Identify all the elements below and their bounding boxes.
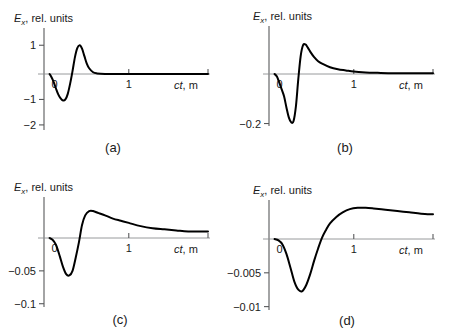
x-tick-label-c-1: 1 (126, 242, 132, 254)
panel-label-d: (d) (339, 313, 355, 328)
y-tick-label-a-0: 1 (30, 39, 36, 51)
y-tick-label-b-0: −0.2 (239, 118, 261, 130)
panel-label-b: (b) (337, 140, 353, 155)
y-axis-label-a: Ex, rel. units (14, 12, 74, 27)
y-tick-label-a-1: −1 (23, 93, 36, 105)
x-axis-label-c: ct, m (174, 243, 198, 255)
plot-svg-d: −0.005−0.0101ct, mEx, rel. units(d) (227, 167, 453, 334)
x-tick-label-a-1: 1 (126, 78, 132, 90)
plot-panel-a: 1−1−201ct, mEx, rel. units(a) (0, 0, 226, 167)
y-tick-label-d-0: −0.005 (227, 267, 261, 279)
y-axis-label-b: Ex, rel. units (253, 10, 313, 25)
y-tick-label-c-0: −0.05 (8, 265, 36, 277)
x-axis-label-unit-c: , m (183, 243, 198, 255)
plot-svg-a: 1−1−201ct, mEx, rel. units(a) (0, 0, 226, 167)
plot-panel-c: −0.05−0.101ct, mEx, rel. units(c) (0, 167, 226, 334)
plot-svg-b: −0.201ct, mEx, rel. units(b) (227, 0, 453, 167)
x-axis-label-unit-b: , m (408, 79, 423, 91)
x-axis-label-a: ct, m (174, 79, 198, 91)
figure-four-panel-plots: 1−1−201ct, mEx, rel. units(a) −0.201ct, … (0, 0, 453, 334)
y-axis-label-d: Ex, rel. units (253, 184, 313, 199)
x-tick-label-d-1: 1 (351, 243, 357, 255)
panel-label-c: (c) (112, 312, 127, 327)
y-tick-label-d-1: −0.01 (233, 301, 261, 313)
x-axis-label-unit-d: , m (408, 244, 423, 256)
y-axis-label-units-b: , rel. units (264, 10, 312, 22)
plot-panel-d: −0.005−0.0101ct, mEx, rel. units(d) (227, 167, 453, 334)
y-tick-label-a-2: −2 (23, 119, 36, 131)
x-axis-label-unit-a: , m (183, 79, 198, 91)
plot-panel-b: −0.201ct, mEx, rel. units(b) (227, 0, 453, 167)
x-tick-label-b-1: 1 (351, 78, 357, 90)
panel-label-a: (a) (105, 140, 121, 155)
y-tick-label-c-1: −0.1 (14, 298, 36, 310)
plot-svg-c: −0.05−0.101ct, mEx, rel. units(c) (0, 167, 226, 334)
y-axis-label-c: Ex, rel. units (14, 181, 74, 196)
x-axis-label-b: ct, m (399, 79, 423, 91)
y-axis-label-units-d: , rel. units (264, 184, 312, 196)
y-axis-label-units-a: , rel. units (25, 12, 73, 24)
y-axis-label-units-c: , rel. units (25, 181, 73, 193)
x-axis-label-d: ct, m (399, 244, 423, 256)
